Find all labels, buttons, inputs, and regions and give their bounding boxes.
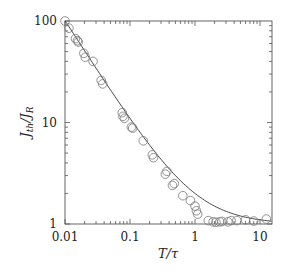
x-axis-tick-labels: 0.010.1110 bbox=[52, 230, 268, 244]
data-point bbox=[98, 80, 107, 89]
data-point bbox=[163, 167, 172, 176]
chart: 0.010.1110 110100 T/τ Jth/JR bbox=[0, 0, 284, 274]
x-tick-label: 0.1 bbox=[120, 230, 139, 244]
y-tick-label: 10 bbox=[42, 116, 57, 130]
y-tick-label: 1 bbox=[49, 217, 57, 231]
data-point bbox=[168, 181, 177, 190]
data-points bbox=[61, 17, 271, 227]
data-point bbox=[179, 191, 188, 200]
x-axis-label: T/τ bbox=[158, 246, 179, 261]
data-point bbox=[262, 215, 271, 224]
data-point bbox=[170, 179, 179, 188]
y-axis-label: Jth/JR bbox=[18, 106, 35, 140]
y-axis-tick-labels: 110100 bbox=[34, 14, 57, 231]
data-point bbox=[65, 24, 74, 33]
plot-area bbox=[65, 21, 272, 224]
plot-frame bbox=[65, 21, 272, 224]
fit-curve bbox=[65, 21, 271, 221]
data-point bbox=[193, 210, 202, 219]
x-tick-label: 10 bbox=[252, 230, 267, 244]
data-point bbox=[186, 196, 195, 205]
y-tick-label: 100 bbox=[34, 14, 57, 28]
data-point bbox=[149, 153, 158, 162]
x-tick-label: 1 bbox=[191, 230, 199, 244]
y-axis-ticks bbox=[65, 21, 272, 224]
data-point bbox=[120, 114, 129, 123]
x-axis-ticks bbox=[65, 21, 260, 224]
x-tick-label: 0.01 bbox=[52, 230, 79, 244]
